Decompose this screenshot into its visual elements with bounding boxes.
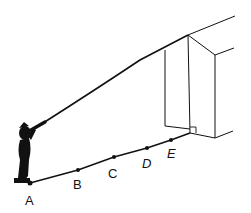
point-dots xyxy=(76,138,173,172)
right-angle-marker xyxy=(190,127,196,133)
point-label-c: C xyxy=(108,167,117,180)
diagram-canvas xyxy=(0,0,251,213)
point-label-b: B xyxy=(73,178,82,191)
point-label-d: D xyxy=(142,157,151,170)
telescope-icon xyxy=(31,122,45,130)
sight-line xyxy=(40,35,188,125)
point-label-a: A xyxy=(25,194,34,207)
observer-icon xyxy=(14,122,36,186)
building xyxy=(165,16,235,138)
point-label-e: E xyxy=(167,147,176,160)
